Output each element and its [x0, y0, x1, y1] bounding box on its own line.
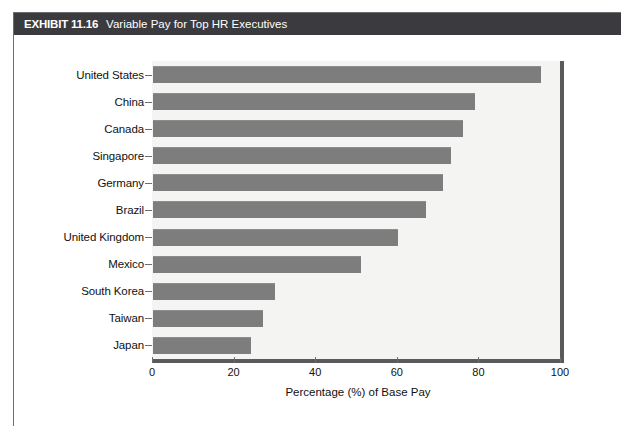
bar — [153, 120, 463, 137]
x-axis-tick-label: 80 — [472, 366, 484, 378]
y-axis-label: Singapore — [92, 150, 144, 162]
bar — [153, 337, 251, 354]
y-axis-tick — [145, 345, 152, 346]
bar-row: China — [14, 88, 621, 115]
exhibit-title: Variable Pay for Top HR Executives — [106, 18, 287, 30]
y-axis-label: United Kingdom — [64, 231, 144, 243]
y-axis-label: United States — [76, 69, 144, 81]
x-axis-tick-label: 100 — [551, 366, 569, 378]
bar — [153, 174, 443, 191]
exhibit-number: EXHIBIT 11.16 — [24, 18, 98, 30]
y-axis-label: Canada — [104, 123, 144, 135]
bar — [153, 229, 398, 246]
y-axis-tick — [145, 291, 152, 292]
bar — [153, 66, 541, 83]
y-axis-tick — [145, 129, 152, 130]
bar — [153, 201, 426, 218]
bar-row: Brazil — [14, 196, 621, 223]
y-axis-tick — [145, 156, 152, 157]
x-axis-tick — [315, 357, 316, 363]
chart-area: United StatesChinaCanadaSingaporeGermany… — [14, 35, 621, 426]
bar-row: Japan — [14, 332, 621, 359]
y-axis-tick — [145, 318, 152, 319]
x-axis-tick — [397, 357, 398, 363]
bar-row: Mexico — [14, 251, 621, 278]
x-axis-tick-label: 60 — [391, 366, 403, 378]
x-axis-title: Percentage (%) of Base Pay — [152, 386, 564, 398]
bar-row: Canada — [14, 115, 621, 142]
bar-row: Germany — [14, 169, 621, 196]
y-axis-label: Brazil — [116, 204, 144, 216]
exhibit-title-banner: EXHIBIT 11.16 Variable Pay for Top HR Ex… — [14, 13, 621, 35]
x-axis-tick — [478, 357, 479, 363]
bar — [153, 93, 475, 110]
y-axis-label: Japan — [113, 339, 144, 351]
x-axis-tick — [152, 357, 153, 363]
bar-rows: United StatesChinaCanadaSingaporeGermany… — [14, 61, 621, 359]
y-axis-label: Mexico — [108, 258, 144, 270]
x-axis-tick — [560, 357, 561, 363]
exhibit-frame: EXHIBIT 11.16 Variable Pay for Top HR Ex… — [13, 12, 621, 426]
bar — [153, 310, 263, 327]
y-axis-tick — [145, 264, 152, 265]
bar-row: United Kingdom — [14, 224, 621, 251]
x-axis-tick-label: 0 — [149, 366, 155, 378]
y-axis-tick — [145, 75, 152, 76]
y-axis-label: South Korea — [81, 285, 144, 297]
bar — [153, 256, 361, 273]
y-axis-label: Taiwan — [109, 312, 144, 324]
y-axis-label: China — [114, 96, 144, 108]
y-axis-tick — [145, 237, 152, 238]
x-axis-tick — [234, 357, 235, 363]
y-axis-tick — [145, 210, 152, 211]
y-axis-tick — [145, 183, 152, 184]
bar — [153, 283, 275, 300]
y-axis-label: Germany — [97, 177, 144, 189]
y-axis-tick — [145, 102, 152, 103]
x-axis-tick-label: 40 — [309, 366, 321, 378]
bar-row: South Korea — [14, 278, 621, 305]
bar-row: Singapore — [14, 142, 621, 169]
bar-row: United States — [14, 61, 621, 88]
x-axis-tick-label: 20 — [227, 366, 239, 378]
bar-row: Taiwan — [14, 305, 621, 332]
bar — [153, 147, 451, 164]
